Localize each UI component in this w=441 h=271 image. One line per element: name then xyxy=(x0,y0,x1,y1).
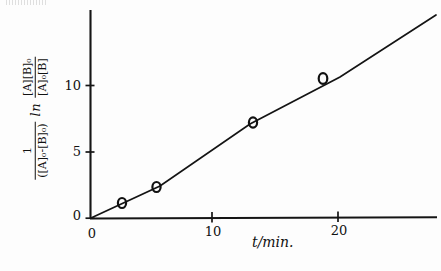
x-tick-label-10: 10 xyxy=(199,224,227,239)
x-tick-label-20: 20 xyxy=(325,223,353,238)
chart-figure: 1 ([A]₀-[B]₀) ln [A][B]₀ [A]₀[B] xyxy=(0,0,441,271)
y-tick-label-10: 10 xyxy=(61,78,81,93)
y-tick-label-5: 5 xyxy=(61,144,81,159)
data-point xyxy=(319,73,328,84)
data-point-group xyxy=(118,73,327,208)
fit-line xyxy=(91,15,436,218)
x-axis-title: t/min. xyxy=(252,234,294,250)
y-tick-label-0: 0 xyxy=(61,208,81,223)
x-tick-label-0: 0 xyxy=(78,226,106,241)
x-axis-line xyxy=(90,217,437,218)
